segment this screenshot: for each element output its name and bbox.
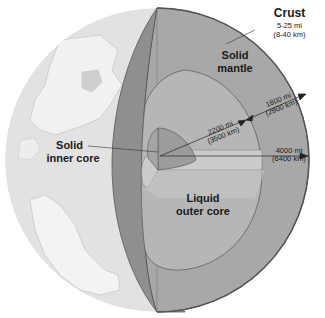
mantle-label-line1: Solid xyxy=(205,50,265,62)
crust-label: Crust xyxy=(262,7,317,20)
crust-thickness-km: (8-40 km) xyxy=(262,31,317,39)
inner-core-label-line2: inner core xyxy=(38,153,108,165)
earth-radius-label: 4000 mi (6400 km) xyxy=(264,147,314,163)
earth-radius-km: (6400 km) xyxy=(264,155,314,163)
inner-core-label-line1: Solid xyxy=(42,140,97,152)
crust-thickness-mi: 5-25 mi xyxy=(262,22,317,30)
outer-core-label-line1: Liquid xyxy=(168,193,238,205)
mantle-label-line2: mantle xyxy=(205,63,265,75)
outer-core-label-line2: outer core xyxy=(160,206,246,218)
